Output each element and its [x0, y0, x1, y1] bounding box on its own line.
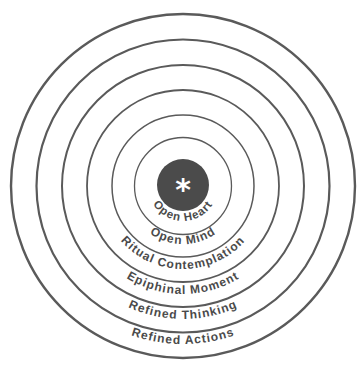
concentric-circle-diagram: * Open Heart Open Mind Ritual Contemplat…: [0, 0, 363, 374]
asterisk-icon: *: [175, 172, 191, 207]
label-open-mind: Open Mind: [148, 224, 218, 247]
diagram-canvas: * Open Heart Open Mind Ritual Contemplat…: [0, 0, 363, 374]
